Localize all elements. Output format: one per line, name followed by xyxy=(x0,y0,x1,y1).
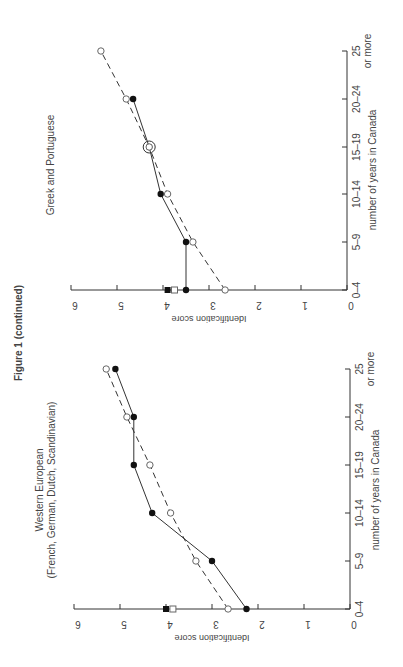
open-circle-marker xyxy=(124,414,130,420)
filled-circle-marker xyxy=(131,462,137,468)
figure-caption-text: Figure 1 (continued) xyxy=(13,285,24,381)
dashed-series-line xyxy=(106,369,228,609)
filled-circle-marker xyxy=(183,287,189,293)
open-circle-marker xyxy=(164,191,170,197)
open-circle-marker xyxy=(193,558,199,564)
category-axis-tick-label: 25 xyxy=(351,45,362,57)
chart-title: Greek and Portuguese xyxy=(45,114,56,215)
category-axis-tick-label: 0–4 xyxy=(351,281,362,298)
value-axis-tick-label: 0 xyxy=(348,300,354,311)
open-circle-marker xyxy=(225,606,231,612)
filled-square-marker xyxy=(165,287,171,293)
category-axis-tick-label: 5–9 xyxy=(354,552,365,569)
value-axis-tick-label: 2 xyxy=(259,619,265,630)
value-axis-tick-label: 2 xyxy=(256,300,262,311)
figure-page: Figure 1 (continued) 0123456Identificati… xyxy=(0,0,403,667)
value-axis-tick-label: 0 xyxy=(351,619,357,630)
category-axis-tick-label: 10–14 xyxy=(354,499,365,527)
open-square-marker xyxy=(172,287,178,293)
value-axis-tick-label: 1 xyxy=(305,619,311,630)
category-axis-tick-label: 25 xyxy=(354,363,365,375)
open-circle-marker xyxy=(167,510,173,516)
category-axis-label: number of years in Canada xyxy=(370,429,381,550)
filled-circle-marker xyxy=(243,606,249,612)
value-axis-tick-label: 3 xyxy=(213,619,219,630)
filled-circle-marker xyxy=(130,96,136,102)
figure-svg: Figure 1 (continued) 0123456Identificati… xyxy=(0,0,403,667)
open-circle-marker xyxy=(98,48,104,54)
value-axis-tick-label: 4 xyxy=(164,300,170,311)
open-circle-marker xyxy=(123,96,129,102)
category-axis-tick-label: 15–19 xyxy=(354,451,365,479)
category-axis-tick-label: 0–4 xyxy=(354,600,365,617)
value-axis-tick-label: 6 xyxy=(75,619,81,630)
value-axis-tick-label: 4 xyxy=(167,619,173,630)
open-circle-marker xyxy=(190,239,196,245)
value-axis-tick-label: 1 xyxy=(302,300,308,311)
filled-circle-marker xyxy=(209,558,215,564)
dashed-series-line xyxy=(101,51,225,290)
figure-caption: Figure 1 (continued) xyxy=(13,285,24,381)
filled-circle-marker xyxy=(183,239,189,245)
open-square-marker xyxy=(170,606,176,612)
category-axis-tick-label: or more xyxy=(362,33,373,68)
filled-circle-marker xyxy=(158,191,164,197)
filled-square-marker xyxy=(163,606,169,612)
value-axis-label: Identification score xyxy=(174,633,249,643)
category-axis-tick-label: or more xyxy=(365,351,376,386)
open-circle-marker xyxy=(146,144,152,150)
filled-circle-marker xyxy=(149,510,155,516)
chart-greek-portuguese: 0123456Identification score0–45–910–1415… xyxy=(45,33,378,324)
category-axis-tick-label: 10–14 xyxy=(351,180,362,208)
category-axis-tick-label: 5–9 xyxy=(351,233,362,250)
chart-subtitle: (French, German, Dutch, Scandinavian) xyxy=(46,402,57,579)
chart-title: Western European xyxy=(34,448,45,531)
category-axis-tick-label: 20–24 xyxy=(354,403,365,431)
value-axis-tick-label: 5 xyxy=(118,300,124,311)
open-circle-marker xyxy=(147,462,153,468)
value-axis-tick-label: 5 xyxy=(121,619,127,630)
chart-western-european: 0123456Identification score0–45–910–1415… xyxy=(34,351,381,643)
category-axis-tick-label: 15–19 xyxy=(351,133,362,161)
filled-circle-marker xyxy=(112,366,118,372)
open-circle-marker xyxy=(222,287,228,293)
category-axis-label: number of years in Canada xyxy=(367,109,378,230)
value-axis-label: Identification score xyxy=(171,314,246,324)
value-axis-tick-label: 3 xyxy=(210,300,216,311)
solid-series-line xyxy=(115,369,246,609)
category-axis-tick-label: 20–24 xyxy=(351,85,362,113)
open-circle-marker xyxy=(103,366,109,372)
value-axis-tick-label: 6 xyxy=(72,300,78,311)
filled-circle-marker xyxy=(131,414,137,420)
